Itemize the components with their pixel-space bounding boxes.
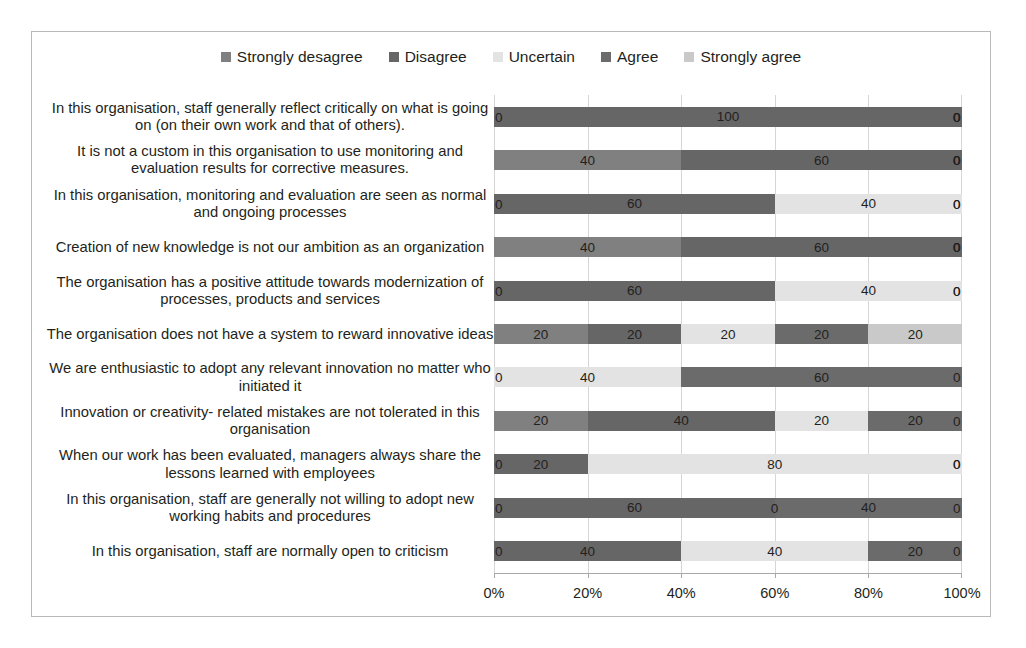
bar-segment-value: 60 [627, 283, 642, 298]
bar-segment-value-zero: 0 [953, 196, 961, 211]
bar-segment-value-zero: 0 [495, 457, 503, 472]
legend-item: Uncertain [493, 48, 575, 66]
bar-row: 4060 [494, 150, 962, 170]
bar-segment-value: 60 [814, 370, 829, 385]
bar-segment-value: 40 [674, 413, 689, 428]
bar-segment: 20 [775, 324, 869, 344]
x-axis-tick [775, 573, 776, 578]
category-label: In this organisation, monitoring and eva… [44, 187, 496, 221]
bar-segment: 40 [775, 498, 962, 518]
category-label: The organisation does not have a system … [44, 326, 496, 343]
bar-row: 6040 [494, 498, 962, 518]
bar-segment: 20 [494, 324, 588, 344]
bar-segment: 20 [681, 324, 775, 344]
category-label: We are enthusiastic to adopt any relevan… [44, 360, 496, 394]
bar-segment-value: 20 [814, 413, 829, 428]
bar-segment-value-zero: 0 [953, 109, 961, 124]
bar-segment-value-zero: 0 [953, 413, 961, 428]
bar-segment-value-zero: 0 [953, 283, 961, 298]
category-label: Innovation or creativity- related mistak… [44, 404, 496, 438]
category-label: In this organisation, staff are normally… [44, 543, 496, 560]
bar-row: 4060 [494, 367, 962, 387]
bar-row: 6040 [494, 281, 962, 301]
bar-segment-value-zero: 0 [953, 240, 961, 255]
bar-segment: 20 [775, 411, 869, 431]
category-label: In this organisation, staff are generall… [44, 491, 496, 525]
x-axis-tick-label: 60% [760, 585, 789, 601]
bar-row: 404020 [494, 541, 962, 561]
bar-segment: 40 [494, 367, 681, 387]
bar-segment-value: 20 [720, 327, 735, 342]
category-label: When our work has been evaluated, manage… [44, 447, 496, 481]
bar-segment-value: 40 [580, 370, 595, 385]
legend-swatch-icon [493, 52, 503, 62]
bar-segment: 60 [494, 281, 775, 301]
bar-segment: 40 [494, 237, 681, 257]
category-label: It is not a custom in this organisation … [44, 143, 496, 177]
bar-row: 4060 [494, 237, 962, 257]
legend-swatch-icon [221, 52, 231, 62]
bar-segment-value-zero: 0 [953, 500, 961, 515]
bar-segment-value-zero: 0 [495, 196, 503, 211]
bar-segment-value-zero: 0 [953, 544, 961, 559]
bar-segment: 40 [681, 541, 868, 561]
bar-segment: 60 [494, 498, 775, 518]
bar-segment-value: 100 [717, 109, 740, 124]
bar-segment-value: 60 [814, 153, 829, 168]
bar-segment-value: 20 [908, 327, 923, 342]
category-label-column: In this organisation, staff generally re… [44, 95, 496, 573]
bar-segment-value-zero: 0 [953, 370, 961, 385]
legend-item: Agree [601, 48, 658, 66]
x-axis-tick [961, 573, 962, 578]
bar-segment: 20 [588, 324, 682, 344]
x-axis-tick-label: 80% [854, 585, 883, 601]
bar-segment-value: 20 [908, 413, 923, 428]
legend-swatch-icon [601, 52, 611, 62]
x-axis-line [494, 573, 962, 574]
legend-label: Uncertain [509, 48, 575, 66]
x-axis-tick-label: 20% [573, 585, 602, 601]
bar-segment-value-zero: 0 [495, 500, 503, 515]
legend-label: Disagree [405, 48, 467, 66]
bar-segment: 40 [775, 194, 962, 214]
bar-segment-value: 40 [767, 544, 782, 559]
chart-frame: Strongly desagreeDisagreeUncertainAgreeS… [31, 31, 991, 617]
bar-segment: 20 [494, 411, 588, 431]
bar-segment-value: 40 [580, 240, 595, 255]
bar-segment-value: 40 [861, 500, 876, 515]
bar-segment-value: 20 [533, 413, 548, 428]
legend-item: Disagree [389, 48, 467, 66]
plot-area: 0%20%40%60%80%100%0000100000406000060400… [494, 95, 962, 573]
bar-segment-value-zero: 0 [953, 153, 961, 168]
bar-segment: 40 [588, 411, 775, 431]
bar-segment-value: 60 [627, 500, 642, 515]
bar-segment-value: 40 [580, 153, 595, 168]
bar-row: 6040 [494, 194, 962, 214]
bar-segment-value: 40 [861, 196, 876, 211]
bar-segment: 60 [681, 150, 962, 170]
bar-segment: 40 [775, 281, 962, 301]
bar-segment: 20 [868, 541, 962, 561]
bar-segment: 100 [494, 107, 962, 127]
legend-swatch-icon [684, 52, 694, 62]
bar-segment: 60 [681, 237, 962, 257]
bar-row: 20402020 [494, 411, 962, 431]
bar-segment-value: 20 [908, 544, 923, 559]
bar-segment: 20 [868, 324, 962, 344]
bar-row: 2080 [494, 454, 962, 474]
bar-segment-value: 20 [533, 457, 548, 472]
legend-label: Strongly desagree [237, 48, 363, 66]
bar-segment-value-zero: 0 [953, 457, 961, 472]
bar-segment-value: 80 [767, 457, 782, 472]
bar-row: 100 [494, 107, 962, 127]
legend-label: Strongly agree [700, 48, 801, 66]
legend-label: Agree [617, 48, 658, 66]
x-axis-tick [588, 573, 589, 578]
bar-segment-value: 40 [580, 544, 595, 559]
bar-segment-value: 20 [627, 327, 642, 342]
x-axis-tick-label: 0% [484, 585, 505, 601]
bar-segment-value-zero: 0 [495, 544, 503, 559]
legend-item: Strongly desagree [221, 48, 363, 66]
bar-segment-value: 20 [533, 327, 548, 342]
bar-segment: 40 [494, 541, 681, 561]
